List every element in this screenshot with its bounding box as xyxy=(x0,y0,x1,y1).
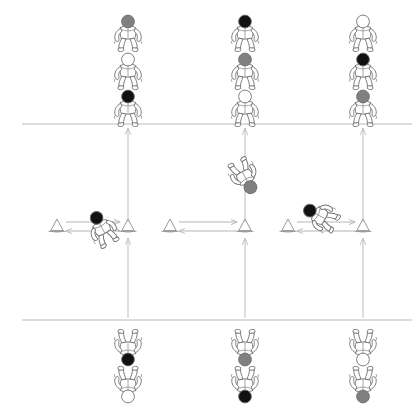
player-bottom-right-1 xyxy=(349,329,377,365)
player-top-center-1 xyxy=(231,15,259,51)
top-queue-figures xyxy=(114,15,377,126)
player-top-left-2 xyxy=(114,53,142,89)
player-head xyxy=(122,90,135,103)
player-bottom-center-2 xyxy=(231,366,259,402)
player-bottom-left-2 xyxy=(114,366,142,402)
player-head xyxy=(122,53,135,66)
active-players xyxy=(81,154,342,251)
player-head xyxy=(239,90,252,103)
player-bottom-center-1 xyxy=(231,329,259,365)
player-head xyxy=(122,353,135,366)
player-head xyxy=(357,90,370,103)
cone-left-outer xyxy=(49,219,66,232)
player-head xyxy=(122,15,135,28)
player-head xyxy=(239,353,252,366)
player-bottom-left-1 xyxy=(114,329,142,365)
player-head xyxy=(357,53,370,66)
player-head xyxy=(357,390,370,403)
player-top-left-1 xyxy=(114,15,142,51)
player-top-right-1 xyxy=(349,15,377,51)
player-top-right-3 xyxy=(349,90,377,126)
player-top-right-2 xyxy=(349,53,377,89)
active-player-left xyxy=(81,206,122,251)
player-head xyxy=(357,353,370,366)
player-top-center-3 xyxy=(231,90,259,126)
cone-right-outer xyxy=(280,219,297,232)
footwork-drill-diagram xyxy=(0,0,417,417)
player-bottom-right-2 xyxy=(349,366,377,402)
player-head xyxy=(239,15,252,28)
bottom-queue-figures xyxy=(114,329,377,402)
player-head xyxy=(357,15,370,28)
cone-center-outer xyxy=(162,219,179,232)
player-top-left-3 xyxy=(114,90,142,126)
player-head xyxy=(239,53,252,66)
diagram-canvas xyxy=(0,0,417,417)
player-head xyxy=(239,390,252,403)
player-head xyxy=(122,390,135,403)
player-top-center-2 xyxy=(231,53,259,89)
